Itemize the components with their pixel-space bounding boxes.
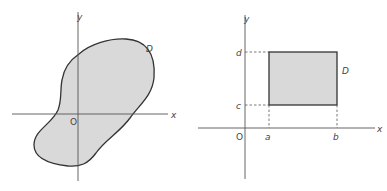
x-axis-label: x (376, 124, 383, 134)
region-label: D (146, 44, 153, 54)
y-lower-label: c (236, 101, 241, 111)
general-region-figure: y x O D (12, 12, 177, 181)
rectangular-region-figure: y x O a b d c D (198, 14, 383, 179)
region-label: D (342, 66, 349, 76)
y-upper-label: d (236, 48, 242, 58)
y-axis-label: y (76, 12, 83, 22)
x-axis-label: x (170, 110, 177, 120)
region-d-blob (34, 39, 154, 166)
x-lower-label: a (265, 132, 271, 142)
y-axis-label: y (243, 14, 250, 24)
region-d-rectangle (269, 52, 337, 105)
x-upper-label: b (333, 132, 339, 142)
origin-label: O (70, 117, 77, 127)
origin-label: O (236, 132, 243, 142)
diagram-canvas: y x O D y x O a b d c D (0, 0, 387, 191)
